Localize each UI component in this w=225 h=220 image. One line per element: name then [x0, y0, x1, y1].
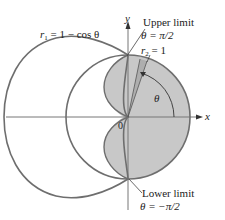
lower-limit-title: Lower limit: [142, 188, 194, 199]
r1-eq: = 1 − cos θ: [48, 28, 100, 40]
theta-label: θ: [154, 93, 159, 104]
upper-limit-title: Upper limit: [143, 17, 194, 28]
r2-eq: = 1: [149, 44, 166, 56]
r1-label: r1 = 1 − cos θ: [40, 29, 99, 42]
y-axis-label: y: [125, 13, 130, 24]
r2-label: r2 = 1: [141, 45, 166, 58]
origin-label: 0: [118, 121, 123, 131]
lower-limit-leader: [129, 179, 142, 193]
x-axis-arrow-icon: [196, 115, 203, 120]
x-axis-label: x: [205, 111, 210, 122]
upper-limit-value: θ = π/2: [141, 30, 173, 41]
lower-limit-value: θ = −π/2: [140, 201, 180, 212]
